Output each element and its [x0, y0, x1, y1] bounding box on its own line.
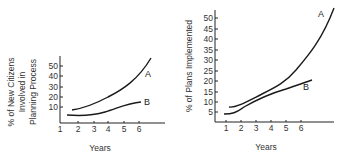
right-y-tick-label: 40: [204, 34, 214, 44]
left-series-b-label: B: [144, 97, 150, 107]
left-y-tick-label: 10: [49, 102, 59, 112]
right-y-tick-label: 25: [204, 66, 214, 76]
left-y-tick-label: 40: [49, 71, 59, 81]
left-y-tick-label: 20: [49, 92, 59, 102]
right-x-tick-label: 4: [269, 123, 274, 133]
svg-text:Planning Process: Planning Process: [28, 59, 38, 125]
left-y-axis-title: % of New Citizens Involved in Planning P…: [6, 58, 38, 127]
right-x-tick-label: 6: [299, 123, 304, 133]
left-chart: 50 40 30 20 10 1 2 3 4 5 6 A B Years % o…: [6, 56, 165, 153]
svg-text:% of New Citizens: % of New Citizens: [6, 58, 16, 127]
right-y-axis-title: % of Plans Implemented: [184, 20, 194, 112]
right-y-tick-label: 50: [204, 13, 214, 23]
left-x-tick-label: 1: [58, 124, 63, 134]
figure: 50 40 30 20 10 1 2 3 4 5 6 A B Years % o…: [0, 0, 339, 155]
right-y-tick-label: 30: [204, 55, 214, 65]
right-chart: 50 45 40 35 30 25 20 15 10 5 1 2 3 4 5 6: [184, 8, 334, 152]
svg-text:% of Plans Implemented: % of Plans Implemented: [184, 20, 194, 112]
right-x-tick-label: 5: [284, 123, 289, 133]
right-x-tick-label: 3: [254, 123, 259, 133]
right-series-a-line: [229, 8, 334, 107]
right-y-tick-label: 5: [208, 107, 213, 117]
right-series-a-label: A: [318, 9, 324, 19]
right-series-b-label: B: [303, 82, 309, 92]
right-axes: [215, 10, 334, 122]
left-axes: [60, 56, 165, 123]
right-y-tick-label: 35: [204, 45, 214, 55]
left-x-tick-label: 3: [92, 124, 97, 134]
right-y-ticks: 50 45 40 35 30 25 20 15 10 5: [204, 13, 218, 117]
left-series-a-label: A: [145, 69, 151, 79]
left-y-tick-label: 30: [49, 82, 59, 92]
right-series-b-line: [224, 80, 312, 114]
left-x-tick-label: 6: [137, 124, 142, 134]
right-x-axis-title: Years: [255, 142, 276, 152]
right-y-tick-label: 15: [204, 87, 214, 97]
left-x-tick-label: 2: [76, 124, 81, 134]
right-x-tick-label: 2: [239, 123, 244, 133]
right-y-tick-label: 10: [204, 97, 214, 107]
left-x-tick-label: 4: [106, 124, 111, 134]
left-y-ticks: 50 40 30 20 10: [49, 61, 63, 112]
right-y-tick-label: 20: [204, 76, 214, 86]
left-x-tick-label: 5: [122, 124, 127, 134]
left-y-tick-label: 50: [49, 61, 59, 71]
right-y-tick-label: 45: [204, 24, 214, 34]
svg-text:Involved in: Involved in: [17, 71, 27, 112]
right-x-tick-label: 1: [224, 123, 229, 133]
left-x-axis-title: Years: [89, 143, 110, 153]
